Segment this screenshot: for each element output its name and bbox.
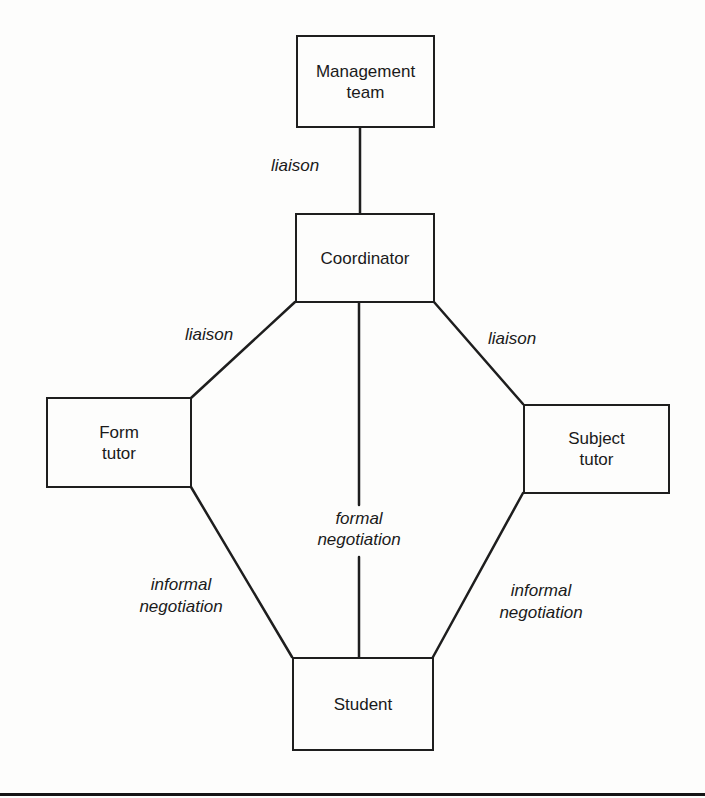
node-label: Subject tutor — [568, 428, 625, 470]
edge-subject-tutor-student — [433, 493, 523, 657]
edge-coordinator-subject-tutor — [434, 302, 523, 404]
edge-label-coordinator-form-tutor: liaison — [172, 324, 246, 346]
node-label: Coordinator — [321, 248, 410, 269]
node-form-tutor: Form tutor — [46, 397, 192, 488]
edge-label-formal-negotiation: formal negotiation — [299, 508, 419, 550]
edge-form-tutor-student — [191, 487, 292, 657]
node-label: Form tutor — [99, 422, 139, 464]
communication-diagram: Management team Coordinator Form tutor S… — [0, 0, 705, 798]
node-label: Management team — [316, 61, 415, 103]
edge-label-informal-negotiation-right: informal negotiation — [480, 580, 602, 624]
node-coordinator: Coordinator — [295, 213, 435, 303]
edge-coordinator-form-tutor — [191, 302, 295, 398]
node-management-team: Management team — [296, 35, 435, 128]
node-subject-tutor: Subject tutor — [523, 404, 670, 494]
node-student: Student — [292, 657, 434, 751]
edge-label-coordinator-subject-tutor: liaison — [475, 328, 549, 350]
edge-label-management-coordinator: liaison — [258, 155, 332, 177]
node-label: Student — [334, 694, 393, 715]
edge-label-informal-negotiation-left: informal negotiation — [120, 574, 242, 618]
bottom-rule — [0, 793, 705, 796]
